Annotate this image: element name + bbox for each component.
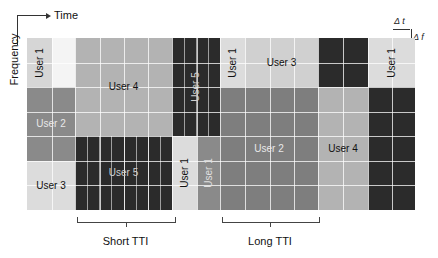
user2-block-main-label: User 2 [244,144,294,154]
grid-row-line [27,87,415,88]
delta-t-label: Δ t [394,17,405,26]
time-axis-label: Time [54,10,78,21]
user5-block-left-label: User 5 [99,168,149,178]
user1-block-c-label: User 1 [387,38,397,88]
grid-col-line [220,38,221,210]
frequency-axis-label: Frequency [9,30,20,90]
grid-col-line [318,38,319,210]
delta-t-arrow [393,29,410,30]
grid-col-line [172,38,173,210]
long-tti-brace-tick [270,223,271,227]
time-arrow-icon [46,13,51,19]
user3-block-left-label: User 3 [26,181,76,191]
short-tti-col-line [208,38,209,136]
grid-row-line [27,136,415,137]
grid-col-line [245,38,246,210]
user1-block-a-label: User 1 [35,38,45,88]
user5-block-mid-label: User 5 [191,62,201,112]
short-tti-col-line [184,38,185,136]
grid-row-line [27,112,415,113]
user4-block-right-label: User 4 [318,144,368,154]
user3-block-top-label: User 3 [257,58,307,68]
short-tti-col-line [160,136,161,210]
user4-block-left-label: User 4 [99,82,149,92]
short-tti-brace-label: Short TTI [86,236,166,247]
user2-block-left-label: User 2 [26,119,76,129]
grid-col-line [100,38,101,210]
grid-col-line [368,38,369,210]
short-tti-col-line [87,136,88,210]
short-tti-brace-tick [126,223,127,227]
grid-row-line [27,63,415,64]
long-tti-brace-label: Long TTI [230,236,310,247]
time-axis-line [17,15,47,16]
long-tti-brace [222,217,320,223]
grid-col-line [343,38,344,210]
user1-block-b-label: User 1 [228,38,238,88]
user1-block-mid-medium-label: User 1 [204,148,214,198]
user1-block-mid-light-label: User 1 [180,148,190,198]
grid-row-line [27,185,415,186]
grid-row-line [27,161,415,162]
